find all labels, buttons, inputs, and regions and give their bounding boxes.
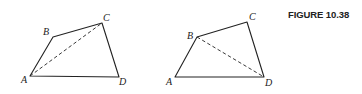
vertex-label-c: C [103, 12, 110, 23]
vertex-label-c: C [249, 11, 256, 22]
vertex-label-d: D [264, 77, 273, 88]
vertex-label-a: A [20, 74, 28, 85]
vertex-label-d: D [118, 76, 127, 87]
diagonal-ac [30, 23, 102, 76]
quadrilateral-left: A B C D [20, 12, 127, 87]
vertex-label-b: B [187, 30, 193, 41]
vertex-label-b: B [43, 26, 49, 37]
vertex-label-a: A [165, 76, 173, 87]
figure-caption: FIGURE 10.38 [288, 9, 349, 20]
quadrilateral-right: A B C D [165, 11, 273, 88]
